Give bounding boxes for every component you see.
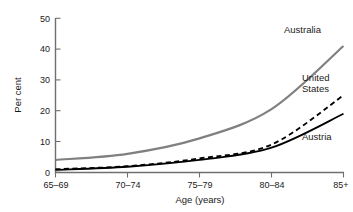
- y-axis-title: Per cent: [12, 77, 23, 113]
- y-tick-label-10: 10: [40, 137, 50, 147]
- series-line-united-states: [56, 95, 344, 169]
- y-tick-label-0: 0: [45, 168, 50, 178]
- x-tick-label-85-plus: 85+: [333, 180, 348, 190]
- y-tick-label-40: 40: [40, 44, 50, 54]
- series-line-australia: [56, 46, 344, 160]
- series-line-austria: [56, 114, 344, 170]
- series-label-united: United: [302, 72, 329, 83]
- x-tick-label-80-84: 80–84: [259, 180, 284, 190]
- series-label-australia: Australia: [284, 24, 322, 35]
- x-axis-ticks: [56, 173, 344, 178]
- series-label-states: States: [302, 83, 329, 94]
- y-tick-label-30: 30: [40, 75, 50, 85]
- x-tick-label-75-79: 75–79: [187, 180, 212, 190]
- y-tick-label-20: 20: [40, 106, 50, 116]
- x-tick-label-65-69: 65–69: [43, 180, 68, 190]
- chart-figure: 50 40 30 20 10 0 Per cent 65–69 70–74 75…: [0, 0, 353, 212]
- x-tick-label-70-74: 70–74: [115, 180, 140, 190]
- x-axis-title: Age (years): [175, 194, 224, 205]
- y-tick-label-50: 50: [40, 14, 50, 24]
- y-axis-ticks: [56, 18, 61, 172]
- chart-axes: [56, 18, 345, 173]
- series-group: [56, 46, 344, 170]
- series-label-austria: Austria: [302, 131, 332, 142]
- line-chart: 50 40 30 20 10 0 Per cent 65–69 70–74 75…: [0, 0, 353, 212]
